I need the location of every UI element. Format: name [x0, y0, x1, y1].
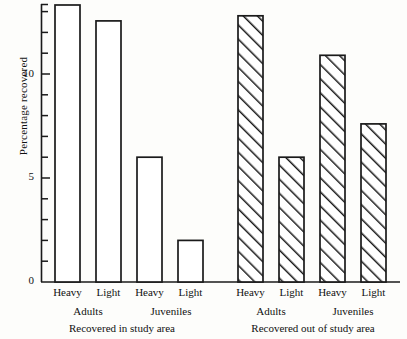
bar-chart-figure: Percentage recovered 10 5 0	[0, 0, 407, 339]
bar-in-adults-light	[96, 21, 121, 282]
bar-out-adults-heavy	[238, 16, 263, 282]
y-axis-ticks	[41, 12, 50, 262]
bar-in-juveniles-heavy	[137, 157, 162, 282]
bar-in-juveniles-light	[178, 240, 203, 282]
panel-label-out-study-area: Recovered out of study area	[220, 322, 406, 334]
bar-out-adults-light	[279, 157, 304, 282]
panel-label-in-study-area: Recovered in study area	[37, 322, 207, 334]
group-label-out-juveniles: Juveniles	[322, 305, 384, 317]
bar-in-adults-heavy	[55, 5, 80, 282]
x-label-bar-8: Light	[349, 287, 398, 298]
group-label-in-juveniles: Juveniles	[140, 305, 202, 317]
bar-out-juveniles-light	[361, 124, 386, 282]
bar-out-juveniles-heavy	[320, 55, 345, 282]
group-label-in-adults: Adults	[63, 305, 113, 317]
x-label-bar-4: Light	[166, 287, 215, 298]
group-label-out-adults: Adults	[246, 305, 296, 317]
